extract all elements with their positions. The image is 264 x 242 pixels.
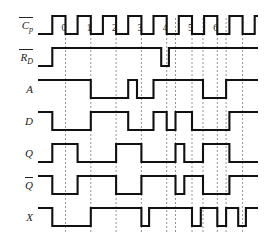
waveform-clock [38,16,258,34]
waveform-a [38,80,258,98]
waveform-x [38,208,258,226]
signal-label-text: D [24,115,33,127]
timing-diagram: CpRDADQQX 0123456 [0,0,264,242]
signal-label-text: X [25,211,34,223]
waveform-d [38,112,258,130]
waveform-q [38,144,258,162]
clock-pulse-number: 0 [61,23,66,33]
signal-label-qbar: Q [25,179,33,191]
clock-pulse-number: 5 [188,23,193,33]
signal-label-text: Q [25,179,33,191]
signal-label-subscript: D [26,57,33,66]
signal-labels-group: CpRDADQQX [19,18,34,224]
waveform-reset [38,48,258,66]
signal-label-q: Q [25,147,33,159]
signal-label-text: Q [25,147,33,159]
clock-pulse-number: 6 [213,23,218,33]
waveform-qbar [38,176,258,194]
clock-pulse-numbers-group: 0123456 [61,23,218,33]
signal-label-reset: RD [19,51,33,66]
clock-pulse-number: 2 [112,23,117,33]
signal-label-d: D [24,115,33,127]
clock-pulse-number: 1 [87,23,92,33]
signal-label-x: X [25,211,34,223]
waveforms-group [38,16,258,226]
signal-label-a: A [25,83,33,95]
timing-diagram-canvas: CpRDADQQX 0123456 [0,0,264,242]
signal-label-text: A [25,83,33,95]
signal-label-clock: Cp [22,19,33,34]
clock-pulse-number: 4 [163,23,168,33]
clock-pulse-number: 3 [137,23,142,33]
signal-label-subscript: p [28,25,33,34]
